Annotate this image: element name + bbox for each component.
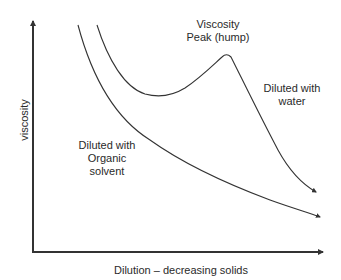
x-axis-label: Dilution – decreasing solids [60,264,302,277]
peak-annotation: Viscosity Peak (hump) [168,18,268,44]
y-axis-label: viscosity [18,99,30,141]
organic-annotation-line-3: solvent [62,165,152,178]
peak-annotation-line-1: Viscosity [168,18,268,31]
water-annotation: Diluted with water [250,82,334,108]
organic-solvent-curve [78,25,320,217]
peak-annotation-line-2: Peak (hump) [168,31,268,44]
organic-annotation: Diluted with Organic solvent [62,139,152,178]
water-annotation-line-1: Diluted with [250,82,334,95]
organic-annotation-line-1: Diluted with [62,139,152,152]
organic-annotation-line-2: Organic [62,152,152,165]
water-annotation-line-2: water [250,95,334,108]
